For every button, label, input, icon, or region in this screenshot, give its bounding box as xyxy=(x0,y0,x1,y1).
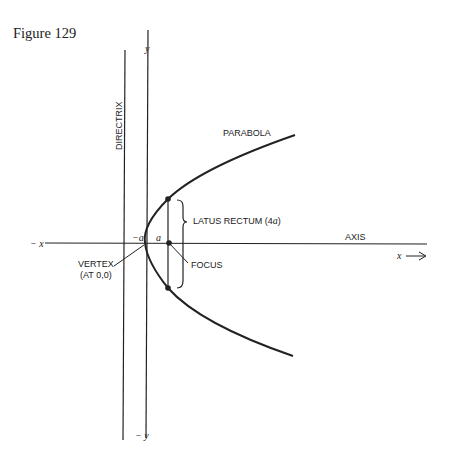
parabola-diagram: DIRECTRIX y − y − x x AXIS PARABOLA LATU… xyxy=(0,0,457,463)
latus-rectum-label: LATUS RECTUM (4a) xyxy=(193,215,281,226)
focus-label: FOCUS xyxy=(191,260,223,270)
parabola-label: PARABOLA xyxy=(223,128,271,138)
directrix-label: DIRECTRIX xyxy=(114,101,124,150)
vertex-label-line1: VERTEX xyxy=(78,259,114,269)
parabola-curve xyxy=(145,135,295,356)
vertex-leader xyxy=(114,245,144,266)
a-label: a xyxy=(156,232,161,243)
y-top-label: y xyxy=(144,43,150,54)
x-axis-line xyxy=(45,243,427,244)
y-axis-line xyxy=(146,30,148,438)
x-right-label: x xyxy=(396,250,402,261)
focus-leader xyxy=(169,243,188,263)
latus-endpoint-top xyxy=(165,196,171,202)
vertex-label-line2: (AT 0,0) xyxy=(80,270,112,280)
latus-endpoint-bottom xyxy=(165,285,171,291)
axis-label: AXIS xyxy=(345,232,366,242)
y-bottom-label: − y xyxy=(135,430,149,441)
figure-canvas: Figure 129 DIRECTRIX y − y − x x AXIS PA… xyxy=(0,0,457,463)
minus-a-label: −a xyxy=(132,232,144,243)
latus-brace xyxy=(177,200,187,288)
x-left-label: − x xyxy=(30,238,44,249)
